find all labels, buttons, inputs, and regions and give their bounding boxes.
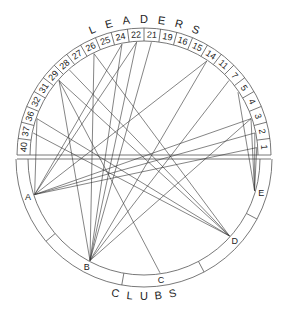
leader-label: 40 [18,142,29,153]
connection-line [90,42,151,260]
connection-line [90,54,94,261]
leader-box-divider [257,138,270,140]
leader-label: 1 [259,144,269,150]
leader-label: 19 [162,31,174,43]
club-divider [46,234,55,242]
leader-label: 3 [253,112,264,120]
leader-label: 4 [246,97,257,106]
title-letter: U [140,290,148,302]
connection-line [35,61,207,194]
leader-box-divider [159,29,161,42]
title-letter: E [157,14,166,27]
title-letter: D [140,13,148,25]
leader-label: 36 [24,110,37,123]
club-divider [246,213,257,219]
club-label: B [84,262,90,272]
titles: LEADERSCLUBS [87,13,202,302]
leader-label: 21 [147,29,158,40]
title-letter: S [190,22,201,36]
leaders-outer-arc [17,28,271,155]
connection-line [94,54,229,236]
connection-line [90,61,207,260]
clubs-outer-arc [16,159,272,287]
leader-box-divider [249,106,261,111]
leader-label: 28 [57,57,71,71]
diagram-rings [16,28,272,287]
leader-label: 2 [257,128,268,135]
leader-label: 37 [20,126,32,138]
connection-line [35,133,255,195]
connection-line [90,44,122,260]
leader-box-divider [234,78,244,86]
leader-label: 29 [46,68,60,82]
club-divider [198,261,204,272]
title-letter: A [122,14,131,27]
connection-line [90,119,251,261]
leaders-clubs-diagram: 4037363231292827262524222119161514117543… [0,0,282,314]
title-letter: L [126,289,133,302]
leader-label: 16 [176,35,189,48]
connection-line [35,119,37,195]
connection-line [90,80,229,260]
leader-box-divider [127,29,129,42]
title-letter: B [154,289,163,302]
leader-label: 7 [229,70,240,80]
title-letter: L [87,23,97,36]
connection-line [90,42,137,260]
club-label: E [258,188,264,198]
leader-label: 24 [115,31,127,43]
club-label: D [231,236,238,246]
club-divider [122,273,124,285]
leader-box-divider [254,122,267,125]
title-letter: E [104,17,114,30]
title-letter: S [168,286,178,299]
title-letter: C [110,286,120,299]
club-label: A [25,192,31,202]
club-label: C [158,275,165,285]
leader-label: 5 [239,83,250,93]
leader-label: 25 [99,35,112,48]
leader-box-divider [18,138,31,140]
connection-lines [33,42,257,273]
connection-line [35,42,137,194]
leader-box-divider [243,92,254,99]
leader-label: 22 [131,29,142,40]
title-letter: R [174,17,185,31]
